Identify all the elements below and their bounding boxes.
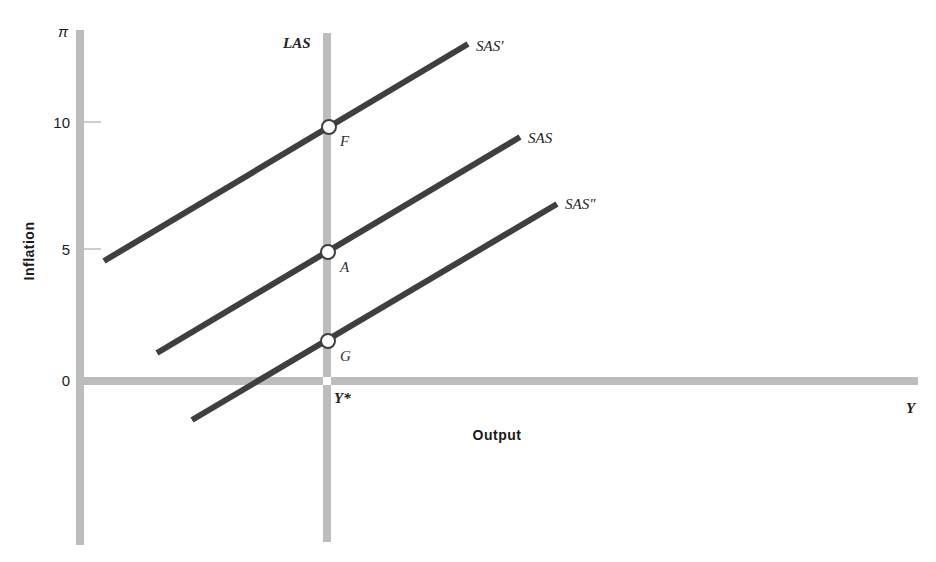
sas-double-prime-curve [192,204,557,420]
y-axis-title: Inflation [21,222,37,281]
sas-curve [157,137,520,353]
tick-label-5: 5 [62,241,70,258]
point-g-marker [321,334,335,348]
ystar-label: Y* [334,390,351,406]
sas-double-prime-label: SAS″ [565,196,596,212]
sas-label: SAS [528,130,553,146]
sas-prime-label: SAS′ [476,38,504,54]
sas-prime-curve [104,44,468,261]
point-f-marker [322,120,336,134]
point-a-label: A [339,259,350,275]
point-a-marker [321,245,335,259]
point-g-label: G [340,348,351,364]
point-f-label: F [339,133,350,149]
las-label: LAS [282,35,311,51]
y-axis-symbol-x: Y [906,400,917,416]
tick-label-0: 0 [62,372,70,389]
y-axis-symbol: π [58,23,69,40]
tick-label-10: 10 [53,114,70,131]
chart-canvas: π 10 5 0 Inflation Output LAS Y* Y SAS′ … [0,0,936,562]
ystar-notch [323,377,331,385]
x-axis-title: Output [473,427,522,443]
